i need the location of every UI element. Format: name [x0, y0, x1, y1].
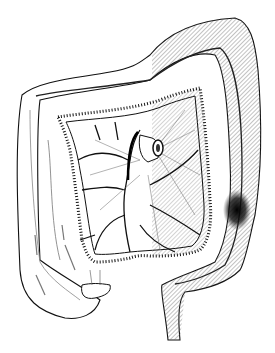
- lesion-spot: [223, 190, 251, 230]
- haustra-marks: [35, 140, 75, 295]
- mesentery: [58, 88, 211, 262]
- colon-outer: [17, 18, 260, 340]
- appendix: [82, 270, 111, 298]
- colon-drawing: [0, 0, 275, 353]
- anatomical-illustration: [0, 0, 275, 353]
